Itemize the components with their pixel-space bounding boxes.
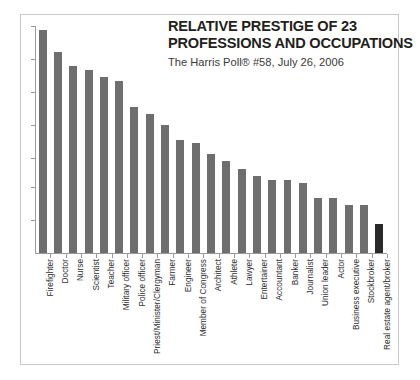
x-axis-label: Journalist: [306, 259, 315, 295]
bar: [238, 169, 246, 253]
x-axis-label: Union leader: [321, 259, 330, 306]
bar: [299, 183, 307, 253]
x-axis-tick: [96, 254, 97, 258]
bar: [314, 198, 322, 253]
bar: [329, 198, 337, 253]
x-axis-tick: [234, 254, 235, 258]
x-axis-label: Accountant: [275, 259, 284, 300]
y-axis-tick: [31, 125, 36, 126]
x-axis-label: Real estate agent/broker: [383, 259, 392, 350]
x-axis-tick: [203, 254, 204, 258]
x-axis-label: Stockbroker: [367, 259, 376, 303]
bar: [146, 114, 154, 253]
x-axis-label: Nurse: [76, 259, 85, 281]
y-axis-tick: [31, 26, 36, 27]
bar: [284, 180, 292, 253]
bar: [207, 154, 215, 253]
bar: [375, 224, 383, 253]
x-axis-label: Priest/Minister/Clergyman: [153, 259, 162, 354]
x-axis-label: Business executive: [352, 259, 361, 330]
x-axis-tick: [50, 254, 51, 258]
bar: [100, 77, 108, 253]
x-axis-tick: [81, 254, 82, 258]
x-axis-tick: [356, 254, 357, 258]
y-axis-tick: [31, 187, 36, 188]
bar: [345, 205, 353, 253]
bar: [222, 161, 230, 253]
x-axis-tick: [157, 254, 158, 258]
x-axis-tick: [341, 254, 342, 258]
x-axis-label: Police officer: [138, 259, 147, 306]
x-axis-tick: [219, 254, 220, 258]
x-axis-tick: [326, 254, 327, 258]
x-axis-label: Military officer: [122, 259, 131, 310]
bar: [176, 140, 184, 254]
x-axis-tick: [295, 254, 296, 258]
x-axis-tick: [66, 254, 67, 258]
x-axis-tick: [372, 254, 373, 258]
x-axis-tick: [310, 254, 311, 258]
x-axis-tick: [265, 254, 266, 258]
x-axis-label: Actor: [337, 259, 346, 278]
y-axis-tick: [31, 92, 36, 93]
bar: [54, 52, 62, 253]
x-axis-label: Lawyer: [245, 259, 254, 286]
x-axis-tick: [280, 254, 281, 258]
x-axis-tick: [387, 254, 388, 258]
x-axis-label: Farmer: [168, 259, 177, 286]
x-axis-tick: [249, 254, 250, 258]
x-axis-tick: [188, 254, 189, 258]
x-axis-label: Firefighter: [46, 259, 55, 296]
x-axis-label: Doctor: [61, 259, 70, 283]
x-axis-label: Architect: [214, 259, 223, 291]
x-axis-label: Teacher: [107, 259, 116, 288]
bar: [253, 176, 261, 253]
x-axis-label: Banker: [291, 259, 300, 285]
x-axis-label: Athlete: [230, 259, 239, 285]
x-axis-label: Scientist: [92, 259, 101, 290]
bar: [39, 30, 47, 253]
x-axis-label: Entertainer: [260, 259, 269, 300]
bar: [69, 66, 77, 253]
y-axis-tick: [31, 220, 36, 221]
x-axis-label: Engineer: [184, 259, 193, 292]
x-axis-tick: [142, 254, 143, 258]
bar: [130, 107, 138, 253]
x-axis-line: [35, 253, 387, 254]
bar: [268, 180, 276, 253]
chart-figure: RELATIVE PRESTIGE OF 23 PROFESSIONS AND …: [0, 0, 420, 380]
x-axis-label: Member of Congress: [199, 259, 208, 336]
bar: [360, 205, 368, 253]
bar: [85, 70, 93, 253]
y-axis-tick: [31, 158, 36, 159]
bar: [192, 143, 200, 253]
bar: [115, 81, 123, 253]
x-axis-tick: [173, 254, 174, 258]
x-axis-tick: [127, 254, 128, 258]
bar: [161, 125, 169, 253]
x-axis-tick: [112, 254, 113, 258]
y-axis-tick: [31, 59, 36, 60]
plot-area: [35, 26, 387, 254]
